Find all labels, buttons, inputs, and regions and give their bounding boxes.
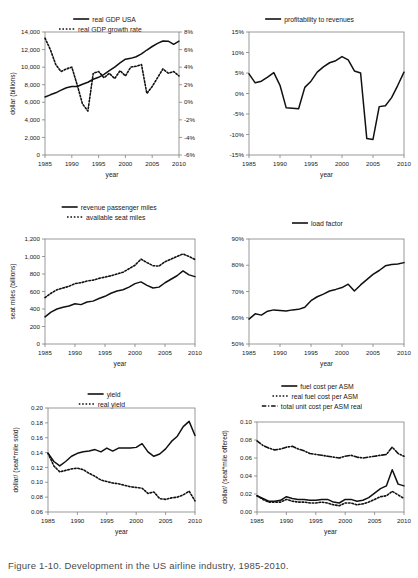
x-tick-label: 2010 xyxy=(397,349,411,356)
y-tick-label: 400 xyxy=(30,305,41,312)
x-tick-label: 1990 xyxy=(65,160,79,167)
x-tick-label: 2000 xyxy=(129,517,143,524)
x-tick-label: 2000 xyxy=(335,160,349,167)
x-tick-label: 1990 xyxy=(273,349,287,356)
y-tick-label: 15% xyxy=(232,28,245,35)
legend-item-cost-2: total unit cost per ASM real xyxy=(262,403,363,411)
x-tick-label: 2000 xyxy=(128,349,142,356)
y-tick-label: 1,000 xyxy=(25,253,41,260)
y-tick-label: 50% xyxy=(232,340,245,347)
svg-text:revenue passenger miles: revenue passenger miles xyxy=(81,204,158,212)
y-tick-label: 14,000 xyxy=(21,28,40,35)
svg-text:available seat miles: available seat miles xyxy=(86,214,146,221)
y-tick-label: 60% xyxy=(232,314,245,321)
chart-cost: fuel cost per ASMreal fuel cost per ASMt… xyxy=(209,380,418,550)
svg-text:profitability to revenues: profitability to revenues xyxy=(284,16,354,24)
x-tick-label: 2010 xyxy=(172,160,186,167)
x-axis-label: year xyxy=(114,360,128,368)
y2-tick-label: 0% xyxy=(184,98,193,105)
y-tick-label: 10% xyxy=(232,49,245,56)
y-tick-label: 0.04 xyxy=(240,472,253,479)
chart-panel-cost: fuel cost per ASMreal fuel cost per ASMt… xyxy=(209,380,418,550)
y-tick-label: 0.10 xyxy=(240,418,253,425)
x-tick-label: 1995 xyxy=(100,517,114,524)
chart-traffic: revenue passenger milesavailable seat mi… xyxy=(0,195,209,380)
x-axis-label: year xyxy=(320,171,334,179)
x-tick-label: 1995 xyxy=(98,349,112,356)
y-tick-label: 0.08 xyxy=(31,493,44,500)
x-tick-label: 1985 xyxy=(242,160,256,167)
legend-item-traffic-1: available seat miles xyxy=(67,214,146,221)
series-line-cost-1 xyxy=(257,491,404,505)
y-axis-label: dollar (billions) xyxy=(9,72,17,115)
x-tick-label: 2010 xyxy=(188,517,202,524)
x-tick-label: 2005 xyxy=(366,349,380,356)
x-tick-label: 2005 xyxy=(145,160,159,167)
svg-text:total unit cost per ASM real: total unit cost per ASM real xyxy=(281,403,363,411)
y-tick-label: -15% xyxy=(230,151,245,158)
y-tick-label: 0.06 xyxy=(240,454,253,461)
y-tick-label: 10,000 xyxy=(21,63,40,70)
x-tick-label: 1995 xyxy=(92,160,106,167)
y-tick-label: 5% xyxy=(235,69,244,76)
x-tick-label: 1990 xyxy=(68,349,82,356)
x-tick-label: 2005 xyxy=(159,517,173,524)
legend-item-gdp-0: real GDP USA xyxy=(73,16,136,23)
x-tick-label: 1985 xyxy=(38,349,52,356)
x-tick-label: 2005 xyxy=(368,517,382,524)
x-axis-label: year xyxy=(106,171,120,179)
chart-panel-yield: yieldreal yield0.060.080.100.120.140.160… xyxy=(0,380,209,550)
x-tick-label: 1990 xyxy=(273,160,287,167)
y-tick-label: 8,000 xyxy=(25,81,41,88)
y-tick-label: -5% xyxy=(233,110,245,117)
y-tick-label: 0.10 xyxy=(31,478,44,485)
y2-tick-label: -2% xyxy=(184,116,196,123)
svg-text:load factor: load factor xyxy=(311,220,343,227)
series-line-cost-2 xyxy=(257,441,404,458)
y-tick-label: 6,000 xyxy=(25,98,41,105)
legend-item-traffic-0: revenue passenger miles xyxy=(62,204,158,212)
svg-text:fuel cost per ASM: fuel cost per ASM xyxy=(300,383,354,391)
chart-loadfactor: load factor50%60%70%80%90%19851990199520… xyxy=(209,195,418,380)
legend-item-cost-1: real fuel cost per ASM xyxy=(272,393,358,401)
x-tick-label: 1995 xyxy=(309,517,323,524)
y-tick-label: 0.14 xyxy=(31,449,44,456)
x-tick-label: 1985 xyxy=(250,517,264,524)
svg-text:real GDP USA: real GDP USA xyxy=(92,16,136,23)
plot-frame xyxy=(257,422,404,512)
legend-item-cost-0: fuel cost per ASM xyxy=(281,383,354,391)
series-line-loadfactor-0 xyxy=(249,263,404,319)
x-tick-label: 1985 xyxy=(38,160,52,167)
chart-panel-gdp: real GDP USAreal GDP growth rate02,0004,… xyxy=(0,0,209,195)
y-tick-label: 0.02 xyxy=(240,490,253,497)
series-line-gdp-1 xyxy=(45,38,179,111)
chart-panel-loadfactor: load factor50%60%70%80%90%19851990199520… xyxy=(209,195,418,380)
x-tick-label: 2005 xyxy=(366,160,380,167)
x-tick-label: 1995 xyxy=(304,349,318,356)
svg-text:real GDP growth rate: real GDP growth rate xyxy=(78,26,142,34)
y-tick-label: 0.18 xyxy=(31,419,44,426)
legend-item-loadfactor-0: load factor xyxy=(292,220,343,227)
chart-panel-traffic: revenue passenger milesavailable seat mi… xyxy=(0,195,209,380)
y2-tick-label: -6% xyxy=(184,151,196,158)
series-line-profitability-0 xyxy=(249,57,404,140)
svg-text:yield: yield xyxy=(107,391,121,399)
y-tick-label: 0% xyxy=(235,90,244,97)
y-tick-label: 1,200 xyxy=(25,235,41,242)
figure-caption: Figure 1-10. Development in the US airli… xyxy=(0,560,418,571)
svg-text:real fuel cost per ASM: real fuel cost per ASM xyxy=(291,393,358,401)
x-tick-label: 1985 xyxy=(242,349,256,356)
y2-tick-label: -4% xyxy=(184,134,196,141)
y2-tick-label: 6% xyxy=(184,46,193,53)
x-axis-label: year xyxy=(324,528,338,536)
y-tick-label: 4,000 xyxy=(25,116,41,123)
series-line-yield-0 xyxy=(48,421,195,466)
y-tick-label: 0 xyxy=(37,151,41,158)
plot-frame xyxy=(45,32,179,155)
y2-tick-label: 8% xyxy=(184,28,193,35)
x-axis-label: year xyxy=(320,360,334,368)
legend-item-profitability-0: profitability to revenues xyxy=(265,16,354,24)
chart-yield: yieldreal yield0.060.080.100.120.140.160… xyxy=(0,380,209,550)
y-tick-label: 800 xyxy=(30,270,41,277)
x-tick-label: 2010 xyxy=(397,160,411,167)
